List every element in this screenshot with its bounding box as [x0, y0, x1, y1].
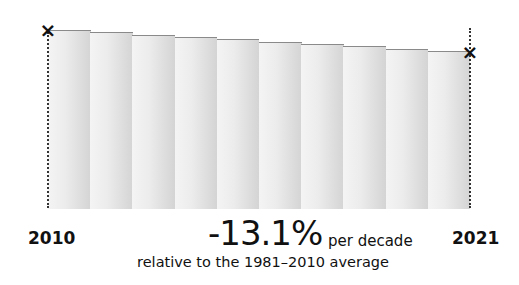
bar-2020: [428, 51, 471, 209]
bar-2019: [386, 49, 429, 209]
bar-2012: [90, 32, 133, 209]
bar-chart: [0, 0, 519, 215]
end-x-marker-icon: ×: [462, 42, 479, 62]
trend-unit: per decade: [328, 232, 413, 250]
start-year-label: 2010: [28, 228, 75, 248]
bar-2013: [132, 35, 175, 209]
trend-value: -13.1%: [208, 213, 322, 253]
bar-2014: [175, 37, 218, 209]
end-year-label: 2021: [452, 228, 499, 248]
bar-2017: [301, 44, 344, 209]
bar-2018: [343, 46, 386, 209]
bar-2016: [259, 42, 302, 209]
bar-2015: [217, 39, 260, 209]
bar-2011: [48, 30, 91, 209]
start-x-marker-icon: ×: [40, 20, 57, 40]
reference-period-note: relative to the 1981–2010 average: [118, 254, 408, 270]
start-dotted-line: [47, 32, 49, 208]
